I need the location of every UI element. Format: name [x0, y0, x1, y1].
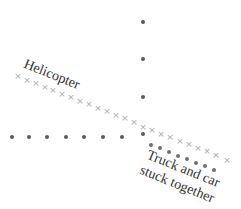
position-dot [141, 132, 145, 136]
position-dot [82, 135, 86, 139]
position-dot [101, 135, 105, 139]
x-mark-icon: × [176, 137, 184, 145]
x-mark-icon: × [112, 111, 120, 119]
position-dot [203, 164, 207, 168]
x-mark-icon: × [41, 83, 49, 91]
x-mark-icon: × [103, 107, 111, 115]
x-mark-icon: × [76, 97, 84, 105]
x-mark-icon: × [130, 118, 138, 126]
x-mark-icon: × [203, 147, 211, 155]
position-dot [141, 20, 145, 24]
position-dot [120, 135, 124, 139]
x-mark-icon: × [139, 123, 147, 131]
position-dot [10, 135, 14, 139]
x-mark-icon: × [148, 126, 156, 134]
position-dot [141, 95, 145, 99]
x-mark-icon: × [194, 144, 202, 152]
position-dot [64, 135, 68, 139]
collision-diagram: ×××××××××××××××××××××××× Helicopter Truc… [0, 0, 241, 209]
x-mark-icon: × [14, 72, 22, 80]
x-mark-icon: × [166, 133, 174, 141]
x-mark-icon: × [58, 90, 66, 98]
position-dot [27, 135, 31, 139]
x-mark-icon: × [157, 130, 165, 138]
x-mark-icon: × [223, 156, 231, 164]
x-mark-icon: × [212, 151, 220, 159]
position-dot [45, 135, 49, 139]
x-mark-icon: × [185, 140, 193, 148]
position-dot [141, 57, 145, 61]
x-mark-icon: × [94, 104, 102, 112]
x-mark-icon: × [32, 79, 40, 87]
x-mark-icon: × [67, 93, 75, 101]
x-mark-icon: × [49, 86, 57, 94]
x-mark-icon: × [85, 100, 93, 108]
x-mark-icon: × [23, 76, 31, 84]
x-mark-icon: × [121, 114, 129, 122]
position-dot [158, 146, 162, 150]
